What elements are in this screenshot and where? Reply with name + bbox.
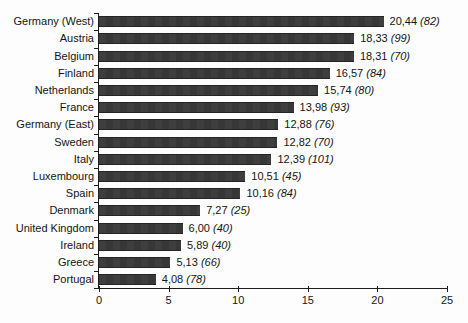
y-tick bbox=[94, 271, 98, 272]
category-label: Luxembourg bbox=[0, 168, 94, 185]
bar bbox=[99, 137, 277, 148]
category-label: Spain bbox=[0, 185, 94, 202]
value-label: 5,13 (66) bbox=[176, 254, 220, 271]
category-label: Denmark bbox=[0, 202, 94, 219]
bar bbox=[99, 223, 183, 234]
value-annotation: (66) bbox=[201, 256, 221, 268]
value-annotation: (70) bbox=[390, 50, 410, 62]
value-number: 18,33 bbox=[360, 32, 388, 44]
category-label: Netherlands bbox=[0, 82, 94, 99]
bar bbox=[99, 257, 170, 268]
bar bbox=[99, 119, 278, 130]
value-number: 5,13 bbox=[176, 256, 197, 268]
category-label: Ireland bbox=[0, 237, 94, 254]
x-tick bbox=[99, 286, 100, 292]
x-tick bbox=[377, 286, 378, 292]
value-number: 6,00 bbox=[189, 222, 210, 234]
x-axis-line bbox=[98, 288, 448, 289]
y-tick bbox=[94, 30, 98, 31]
x-tick bbox=[447, 286, 448, 292]
y-tick bbox=[94, 254, 98, 255]
bar bbox=[99, 51, 354, 62]
value-annotation: (25) bbox=[231, 204, 251, 216]
value-number: 4,08 bbox=[162, 273, 183, 285]
x-tick-label: 5 bbox=[166, 294, 172, 306]
value-annotation: (40) bbox=[213, 222, 233, 234]
category-label: Greece bbox=[0, 254, 94, 271]
value-label: 20,44 (82) bbox=[390, 13, 440, 30]
y-tick bbox=[94, 185, 98, 186]
value-annotation: (99) bbox=[391, 32, 411, 44]
y-tick bbox=[94, 220, 98, 221]
value-label: 7,27 (25) bbox=[206, 202, 250, 219]
bar bbox=[99, 33, 354, 44]
y-tick bbox=[94, 48, 98, 49]
value-number: 10,16 bbox=[246, 187, 274, 199]
value-annotation: (45) bbox=[282, 170, 302, 182]
y-tick bbox=[94, 99, 98, 100]
value-number: 7,27 bbox=[206, 204, 227, 216]
category-label: France bbox=[0, 99, 94, 116]
category-label: Austria bbox=[0, 30, 94, 47]
y-axis-line bbox=[98, 13, 99, 288]
value-number: 10,51 bbox=[251, 170, 279, 182]
value-annotation: (70) bbox=[314, 136, 334, 148]
y-tick bbox=[94, 82, 98, 83]
value-label: 12,82 (70) bbox=[283, 134, 333, 151]
value-label: 18,33 (99) bbox=[360, 30, 410, 47]
value-annotation: (84) bbox=[366, 67, 386, 79]
value-label: 10,51 (45) bbox=[251, 168, 301, 185]
category-label: Finland bbox=[0, 65, 94, 82]
x-tick-label: 25 bbox=[441, 294, 453, 306]
y-tick bbox=[94, 134, 98, 135]
x-tick-label: 0 bbox=[96, 294, 102, 306]
value-label: 12,88 (76) bbox=[284, 116, 334, 133]
value-label: 13,98 (93) bbox=[300, 99, 350, 116]
x-tick bbox=[169, 286, 170, 292]
y-tick bbox=[94, 237, 98, 238]
value-label: 16,57 (84) bbox=[336, 65, 386, 82]
x-tick bbox=[238, 286, 239, 292]
x-tick-label: 20 bbox=[371, 294, 383, 306]
value-number: 18,31 bbox=[360, 50, 388, 62]
value-label: 15,74 (80) bbox=[324, 82, 374, 99]
value-label: 12,39 (101) bbox=[277, 151, 333, 168]
y-tick bbox=[94, 168, 98, 169]
value-number: 20,44 bbox=[390, 15, 418, 27]
value-annotation: (80) bbox=[355, 84, 375, 96]
category-label: Germany (East) bbox=[0, 116, 94, 133]
y-tick bbox=[94, 151, 98, 152]
value-number: 16,57 bbox=[336, 67, 364, 79]
value-label: 5,89 (40) bbox=[187, 237, 231, 254]
value-number: 12,82 bbox=[283, 136, 311, 148]
value-annotation: (101) bbox=[308, 153, 334, 165]
bar bbox=[99, 102, 294, 113]
bar bbox=[99, 171, 245, 182]
y-tick bbox=[94, 65, 98, 66]
value-label: 10,16 (84) bbox=[246, 185, 296, 202]
y-tick bbox=[94, 202, 98, 203]
category-label: Belgium bbox=[0, 48, 94, 65]
value-label: 6,00 (40) bbox=[189, 220, 233, 237]
value-number: 13,98 bbox=[300, 101, 328, 113]
value-number: 5,89 bbox=[187, 239, 208, 251]
x-tick-label: 10 bbox=[232, 294, 244, 306]
value-number: 12,88 bbox=[284, 118, 312, 130]
horizontal-bar-chart: Germany (West)20,44 (82)Austria18,33 (99… bbox=[0, 0, 468, 323]
value-annotation: (93) bbox=[330, 101, 350, 113]
category-label: Italy bbox=[0, 151, 94, 168]
category-label: Portugal bbox=[0, 271, 94, 288]
bar bbox=[99, 16, 384, 27]
value-annotation: (40) bbox=[211, 239, 231, 251]
bar bbox=[99, 205, 200, 216]
value-annotation: (82) bbox=[420, 15, 440, 27]
category-label: Sweden bbox=[0, 134, 94, 151]
value-annotation: (78) bbox=[186, 273, 206, 285]
category-label: Germany (West) bbox=[0, 13, 94, 30]
bar bbox=[99, 85, 318, 96]
bar bbox=[99, 154, 271, 165]
value-label: 18,31 (70) bbox=[360, 48, 410, 65]
bar bbox=[99, 240, 181, 251]
y-tick bbox=[94, 116, 98, 117]
bar bbox=[99, 274, 156, 285]
